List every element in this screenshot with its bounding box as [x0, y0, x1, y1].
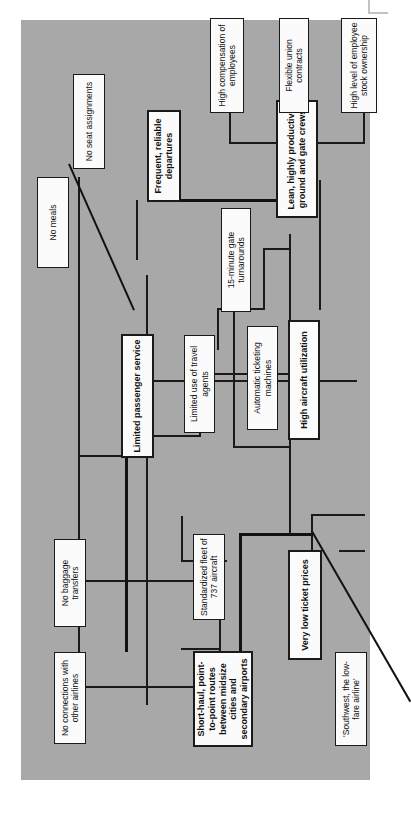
node-label: 'Southwest, the low-fare airline' — [341, 656, 361, 742]
registration-corner-mark — [368, 0, 388, 14]
node-label: Flexible union contracts — [284, 22, 304, 109]
node-label: Standardized fleet of 737 aircraft — [199, 538, 219, 616]
node-label: No seat assignments — [84, 82, 94, 161]
node-label: No meals — [48, 205, 58, 241]
node-label: Frequent, reliable departures — [153, 115, 174, 197]
node-label: High compensation of employees — [217, 22, 237, 109]
edge-util-vert — [233, 446, 289, 448]
node-lean-crews[interactable]: Lean, highly productive ground and gate … — [276, 100, 318, 218]
edge-shorthaul-prices — [239, 534, 242, 652]
node-15-minute-turnarounds[interactable]: 15-minute gate turnarounds — [221, 208, 251, 312]
edge-southwest-stem — [339, 550, 365, 552]
node-label: Very low ticket prices — [300, 559, 311, 651]
edge-util-lean — [319, 180, 321, 310]
node-high-compensation[interactable]: High compensation of employees — [210, 18, 244, 113]
node-frequent-departures[interactable]: Frequent, reliable departures — [147, 110, 181, 202]
node-short-haul[interactable]: Short-haul, point-to-point routes betwee… — [193, 651, 253, 747]
edge-fleet-shorthaul — [181, 648, 219, 650]
node-label: No baggage transfers — [60, 543, 80, 623]
edge-gate-d — [263, 248, 291, 250]
diagram-stage: No connections with other airlines Short… — [21, 20, 370, 780]
node-high-aircraft-utilization[interactable]: High aircraft utilization — [288, 320, 320, 440]
node-standardized-fleet[interactable]: Standardized fleet of 737 aircraft — [193, 534, 225, 620]
node-limited-travel-agents[interactable]: Limited use of travel agents — [184, 335, 215, 433]
node-limited-passenger-service[interactable]: Limited passenger service — [121, 334, 154, 458]
edge-shorthaul-prices-v — [239, 533, 311, 536]
node-stock-ownership[interactable]: High level of employee stock ownership — [341, 18, 377, 113]
node-no-baggage[interactable]: No baggage transfers — [54, 539, 86, 627]
node-no-meals[interactable]: No meals — [37, 177, 69, 268]
node-no-connections[interactable]: No connections with other airlines — [54, 652, 86, 744]
node-label: Short-haul, point-to-point routes betwee… — [196, 656, 249, 742]
node-label: Lean, highly productive ground and gate … — [286, 105, 307, 213]
node-label: Limited use of travel agents — [189, 339, 209, 429]
node-label: High aircraft utilization — [299, 331, 310, 429]
node-very-low-prices[interactable]: Very low ticket prices — [288, 550, 322, 660]
node-label: 15-minute gate turnarounds — [226, 212, 246, 308]
node-flexible-union[interactable]: Flexible union contracts — [279, 18, 309, 113]
node-label: No connections with other airlines — [60, 656, 80, 740]
edge-southwest-prices-v — [311, 514, 365, 516]
node-label: Automatic ticketing machines — [252, 330, 272, 426]
edge-fleet-right — [181, 516, 183, 562]
node-label: Limited passenger service — [132, 339, 143, 452]
node-southwest[interactable]: 'Southwest, the low-fare airline' — [335, 652, 367, 746]
edge-freq-c — [136, 200, 138, 260]
node-automatic-ticketing[interactable]: Automatic ticketing machines — [247, 326, 278, 430]
node-no-seat-assignments[interactable]: No seat assignments — [73, 74, 105, 169]
edge-gate-c — [217, 310, 219, 350]
edge-spine-noconn — [78, 177, 80, 723]
edge-gate-b — [263, 250, 265, 310]
node-label: High level of employee stock ownership — [349, 22, 369, 109]
